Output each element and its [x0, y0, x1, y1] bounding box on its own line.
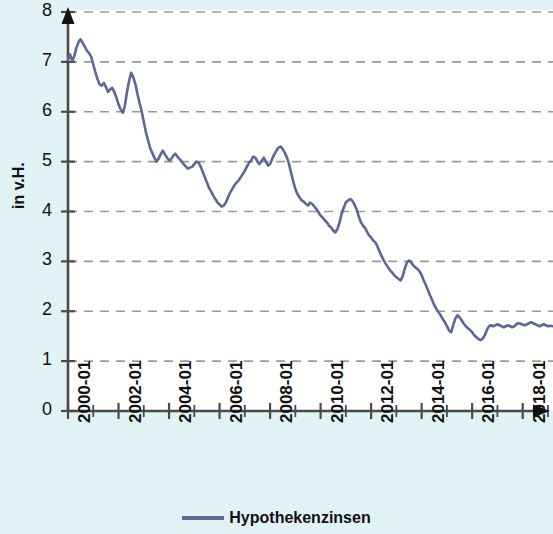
x-tick-label: 2010-01 [328, 361, 348, 423]
x-tick-label: 2018-01 [530, 361, 550, 423]
x-tick-label: 2000-01 [75, 361, 95, 423]
x-tick-label: 2008-01 [277, 361, 297, 423]
y-tick-label: 8 [26, 0, 52, 21]
x-tick-label: 2002-01 [126, 361, 146, 423]
x-tick-label: 2004-01 [176, 361, 196, 423]
y-tick-label: 1 [26, 349, 52, 370]
y-tick-label: 5 [26, 150, 52, 171]
legend-line-swatch [182, 516, 224, 520]
y-tick-label: 7 [26, 50, 52, 71]
gridlines-group [68, 12, 553, 361]
y-tick-label: 4 [26, 200, 52, 221]
y-tick-label: 3 [26, 249, 52, 270]
x-tick-label: 2016-01 [479, 361, 499, 423]
x-tick-label: 2006-01 [227, 361, 247, 423]
chart-canvas [0, 0, 553, 534]
chart-container: in v.H. 012345678 2000-012002-012004-012… [0, 0, 553, 534]
y-axis-arrow-icon [62, 7, 75, 24]
x-tick-label: 2014-01 [429, 361, 449, 423]
y-tick-label: 6 [26, 100, 52, 121]
y-tick-label: 2 [26, 299, 52, 320]
legend: Hypothekenzinsen [0, 509, 553, 527]
y-tick-label: 0 [26, 399, 52, 420]
data-line-hypothekenzinsen [68, 39, 553, 340]
x-tick-label: 2012-01 [378, 361, 398, 423]
legend-label: Hypothekenzinsen [229, 509, 370, 527]
